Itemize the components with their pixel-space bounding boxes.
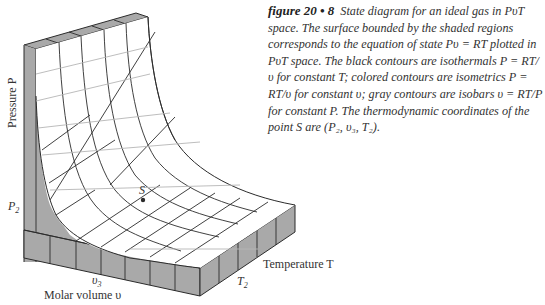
volume-label-text: Molar volume υ [44, 288, 121, 302]
pvt-surface [36, 17, 295, 268]
caption-text: State diagram for an ideal gas in PυT sp… [268, 4, 542, 134]
pressure-label-text: Pressure P [5, 78, 19, 128]
temperature-label-text: Temperature T [263, 257, 334, 271]
temperature-axis-label: Temperature T [263, 257, 334, 272]
volume-axis-label: Molar volume υ [44, 288, 121, 303]
v3-label: υ3 [92, 273, 102, 289]
figure-number: figure 20 • 8 [268, 3, 334, 18]
point-s-label: S [139, 183, 145, 198]
t2-text: T [237, 274, 244, 288]
figure-caption: figure 20 • 8State diagram for an ideal … [268, 3, 543, 136]
point-s [141, 198, 145, 202]
p2-sub: 2 [15, 206, 19, 215]
p2-label: P2 [8, 199, 19, 215]
point-s-text: S [139, 183, 145, 197]
pressure-axis-label: Pressure P [5, 78, 20, 128]
t2-sub: 2 [244, 281, 248, 290]
t2-label: T2 [237, 274, 248, 290]
